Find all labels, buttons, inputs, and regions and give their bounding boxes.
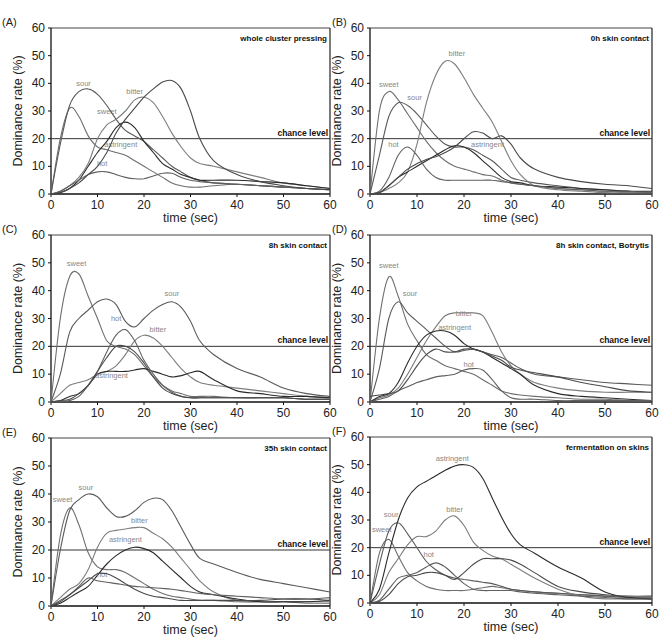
- y-tick-label: 0: [38, 395, 45, 409]
- x-axis-label: time (sec): [484, 211, 539, 225]
- chance-level-label: chance level: [277, 335, 328, 345]
- x-tick-label: 30: [504, 607, 518, 621]
- x-axis-label: time (sec): [163, 211, 218, 225]
- series-label-sour: sour: [165, 289, 180, 298]
- chance-level-label: chance level: [599, 335, 650, 345]
- series-label-astringent: astringent: [95, 371, 129, 380]
- y-tick-label: 0: [38, 187, 45, 201]
- x-tick-label: 40: [230, 406, 244, 420]
- y-tick-label: 50: [351, 256, 365, 270]
- series-label-hot: hot: [388, 140, 399, 149]
- chance-level-label: chance level: [277, 128, 328, 138]
- series-label-bitter: bitter: [456, 309, 473, 318]
- series-label-sour: sour: [79, 483, 94, 492]
- series-label-sour: sour: [403, 289, 418, 298]
- y-tick-label: 50: [351, 49, 365, 63]
- y-tick-label: 30: [351, 104, 365, 118]
- x-tick-label: 10: [410, 198, 424, 212]
- series-label-sweet: sweet: [379, 261, 400, 270]
- panel-title: fermentation on skins: [566, 443, 650, 452]
- y-tick-label: 40: [32, 487, 46, 501]
- series-label-astringent: astringent: [109, 535, 143, 544]
- y-tick-label: 30: [351, 513, 365, 527]
- panel-letter: (E): [2, 426, 17, 438]
- chart-panel-d: 01020304050600102030405060time (sec)Domi…: [330, 223, 659, 433]
- y-tick-label: 40: [351, 485, 365, 499]
- series-line-hot: [51, 172, 330, 194]
- series-line-hot: [370, 563, 652, 603]
- x-tick-label: 50: [277, 406, 291, 420]
- series-label-sour: sour: [384, 510, 399, 519]
- x-tick-label: 30: [184, 198, 198, 212]
- series-label-bitter: bitter: [446, 505, 463, 514]
- x-tick-label: 50: [598, 406, 612, 420]
- x-tick-label: 20: [137, 198, 151, 212]
- y-tick-label: 0: [357, 596, 364, 610]
- y-tick-label: 20: [351, 541, 365, 555]
- y-axis-label: Dominance rate (%): [11, 263, 25, 374]
- panel-title: 8h skin contact: [269, 241, 328, 250]
- x-tick-label: 20: [137, 610, 151, 624]
- panel-title: 8h skin contact, Botrytis: [556, 241, 649, 250]
- x-tick-label: 0: [367, 198, 374, 212]
- series-line-bitter: [370, 313, 652, 402]
- y-axis-label: Dominance rate (%): [11, 55, 25, 166]
- y-tick-label: 60: [351, 228, 365, 242]
- y-tick-label: 10: [32, 367, 46, 381]
- series-label-astringent: astringent: [436, 454, 470, 463]
- y-tick-label: 30: [351, 312, 365, 326]
- y-axis-label: Dominance rate (%): [330, 464, 344, 575]
- panel-letter: (B): [332, 16, 347, 28]
- panel-title: whole cluster pressing: [239, 34, 327, 43]
- y-tick-label: 20: [32, 339, 46, 353]
- chart-panel-b: 01020304050600102030405060time (sec)Domi…: [330, 16, 659, 225]
- x-tick-label: 10: [410, 607, 424, 621]
- y-tick-label: 10: [351, 568, 365, 582]
- series-label-sweet: sweet: [67, 259, 88, 268]
- figure-canvas: 01020304050600102030405060time (sec)Domi…: [0, 0, 669, 641]
- series-line-unlabeled: [51, 573, 330, 606]
- y-tick-label: 50: [32, 459, 46, 473]
- y-tick-label: 10: [351, 159, 365, 173]
- x-tick-label: 40: [551, 406, 565, 420]
- series-line-sour: [51, 89, 330, 194]
- x-tick-label: 0: [48, 198, 55, 212]
- x-axis-label: time (sec): [163, 623, 218, 637]
- series-line-bitter: [370, 516, 652, 603]
- chart-panel-a: 01020304050600102030405060time (sec)Domi…: [2, 16, 337, 225]
- x-tick-label: 30: [184, 406, 198, 420]
- series-label-hot: hot: [111, 314, 122, 323]
- y-tick-label: 60: [32, 228, 46, 242]
- panel-letter: (C): [2, 223, 17, 235]
- y-tick-label: 20: [32, 543, 46, 557]
- chart-panel-c: 01020304050600102030405060time (sec)Domi…: [2, 223, 337, 433]
- x-tick-label: 50: [598, 198, 612, 212]
- panel-letter: (F): [332, 425, 346, 437]
- x-axis-label: time (sec): [163, 419, 218, 433]
- panel-title: 35h skin contact: [264, 444, 327, 453]
- series-label-sour: sour: [407, 93, 422, 102]
- y-tick-label: 60: [351, 21, 365, 35]
- series-label-hot: hot: [463, 360, 474, 369]
- series-line-hot: [370, 147, 652, 194]
- x-tick-label: 60: [645, 198, 659, 212]
- y-tick-label: 0: [357, 187, 364, 201]
- panel-title: 0h skin contact: [591, 34, 650, 43]
- x-axis-label: time (sec): [484, 419, 539, 433]
- x-tick-label: 40: [230, 198, 244, 212]
- x-tick-label: 40: [230, 610, 244, 624]
- x-tick-label: 20: [457, 406, 471, 420]
- x-tick-label: 60: [323, 610, 337, 624]
- y-tick-label: 20: [351, 339, 365, 353]
- x-tick-label: 50: [277, 610, 291, 624]
- chart-panel-f: 01020304050600102030405060time (sec)Domi…: [330, 425, 659, 634]
- series-label-bitter: bitter: [131, 516, 148, 525]
- y-tick-label: 10: [32, 571, 46, 585]
- y-tick-label: 0: [38, 599, 45, 613]
- y-tick-label: 60: [32, 21, 46, 35]
- series-line-unlabeled: [370, 349, 652, 397]
- x-tick-label: 60: [645, 607, 659, 621]
- x-tick-label: 20: [457, 198, 471, 212]
- y-tick-label: 50: [32, 256, 46, 270]
- y-tick-label: 60: [351, 430, 365, 444]
